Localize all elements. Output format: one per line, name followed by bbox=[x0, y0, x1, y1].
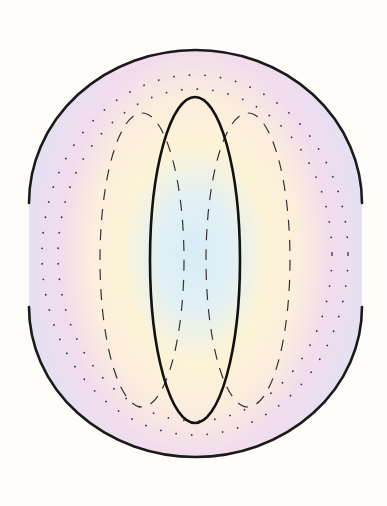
field-diagram bbox=[0, 0, 387, 506]
field-region bbox=[29, 50, 362, 457]
